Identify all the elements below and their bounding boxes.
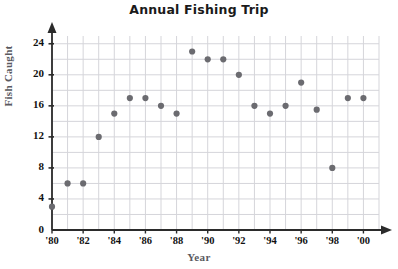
- y-tick-label: 24: [18, 36, 44, 48]
- data-point: [49, 204, 55, 210]
- axis-tick-marks: [49, 44, 364, 234]
- data-point: [111, 111, 117, 117]
- data-point: [189, 48, 195, 54]
- x-axis-arrow-icon: [381, 226, 392, 235]
- data-point: [298, 79, 304, 85]
- y-tick-label: 12: [18, 129, 44, 141]
- x-tick-label: '86: [130, 235, 160, 246]
- x-tick-label: '92: [224, 235, 254, 246]
- data-point: [329, 165, 335, 171]
- data-point: [345, 95, 351, 101]
- y-tick-label: 4: [18, 191, 44, 203]
- data-point: [282, 103, 288, 109]
- data-point: [173, 111, 179, 117]
- x-tick-label: '00: [348, 235, 378, 246]
- data-point: [142, 95, 148, 101]
- data-point: [64, 180, 70, 186]
- data-point: [267, 111, 273, 117]
- y-tick-label: 16: [18, 98, 44, 110]
- x-tick-label: '98: [317, 235, 347, 246]
- data-point: [314, 107, 320, 113]
- x-tick-label: '90: [193, 235, 223, 246]
- scatter-chart: Annual Fishing Trip Fish Caught Year 048…: [0, 0, 398, 269]
- plot-area: [0, 0, 398, 269]
- y-tick-label: 8: [18, 160, 44, 172]
- data-point: [251, 103, 257, 109]
- x-tick-label: '96: [286, 235, 316, 246]
- y-tick-label: 20: [18, 67, 44, 79]
- x-tick-label: '80: [37, 235, 67, 246]
- y-tick-label: 0: [18, 223, 44, 235]
- x-tick-label: '88: [162, 235, 192, 246]
- x-tick-label: '94: [255, 235, 285, 246]
- grid-lines: [52, 36, 379, 230]
- data-point: [96, 134, 102, 140]
- data-point: [127, 95, 133, 101]
- x-tick-label: '82: [68, 235, 98, 246]
- data-point: [360, 95, 366, 101]
- data-point: [236, 72, 242, 78]
- data-point: [158, 103, 164, 109]
- x-tick-label: '84: [99, 235, 129, 246]
- data-point: [205, 56, 211, 62]
- data-point: [80, 180, 86, 186]
- y-axis-arrow-icon: [48, 22, 57, 33]
- data-point: [220, 56, 226, 62]
